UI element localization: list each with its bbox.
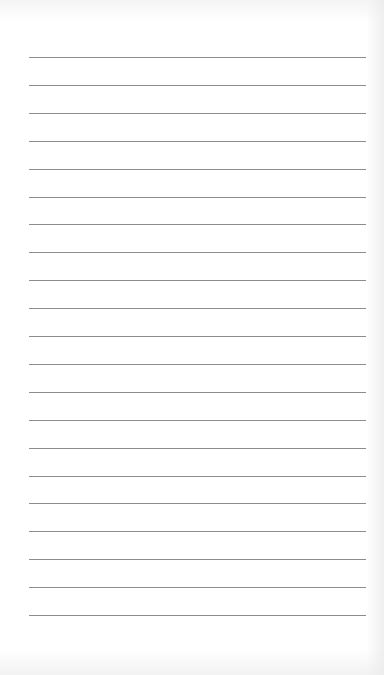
ruled-line bbox=[29, 308, 366, 309]
ruled-line bbox=[29, 336, 366, 337]
ruled-line bbox=[29, 448, 366, 449]
ruled-line bbox=[29, 252, 366, 253]
ruled-line bbox=[29, 392, 366, 393]
ruled-line bbox=[29, 364, 366, 365]
ruled-line bbox=[29, 476, 366, 477]
ruled-line bbox=[29, 197, 366, 198]
ruled-line bbox=[29, 169, 366, 170]
ruled-line bbox=[29, 531, 366, 532]
ruled-line bbox=[29, 587, 366, 588]
ruled-line bbox=[29, 503, 366, 504]
ruled-line bbox=[29, 420, 366, 421]
ruled-line bbox=[29, 113, 366, 114]
ruled-line bbox=[29, 141, 366, 142]
ruled-line bbox=[29, 559, 366, 560]
ruled-line bbox=[29, 57, 366, 58]
ruled-line bbox=[29, 85, 366, 86]
ruled-line bbox=[29, 224, 366, 225]
lined-paper-sheet bbox=[0, 0, 384, 675]
ruled-line bbox=[29, 615, 366, 616]
ruled-line bbox=[29, 280, 366, 281]
